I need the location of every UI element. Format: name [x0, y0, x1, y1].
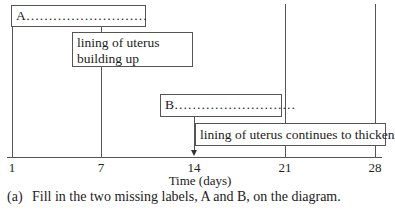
- label-A-text: A………………………: [16, 8, 147, 23]
- day-7-line-lower: [101, 67, 102, 157]
- tick-day-7: 7: [98, 160, 105, 176]
- label-B-text: B………………………: [165, 97, 296, 112]
- day-14-arrow-icon: [191, 150, 197, 156]
- tick-day-21: 21: [279, 160, 292, 176]
- day-1-line: [12, 27, 13, 157]
- time-axis: [7, 157, 382, 158]
- label-A-box[interactable]: A………………………: [11, 5, 146, 27]
- lining-thicken-text: lining of uterus continues to thicken: [200, 127, 395, 142]
- tick-day-28: 28: [369, 160, 382, 176]
- lining-building-line2: building up: [77, 51, 188, 67]
- question-number: (a): [7, 189, 32, 205]
- lining-thicken-box: lining of uterus continues to thicken: [195, 123, 386, 146]
- lining-building-box: lining of uterus building up: [72, 32, 193, 67]
- axis-title: Time (days): [169, 173, 232, 189]
- label-B-box[interactable]: B………………………: [160, 94, 282, 117]
- lining-building-line1: lining of uterus: [77, 35, 188, 51]
- tick-day-1: 1: [9, 160, 16, 176]
- question-text: Fill in the two missing labels, A and B,…: [32, 189, 341, 204]
- question-a: (a)Fill in the two missing labels, A and…: [7, 189, 341, 205]
